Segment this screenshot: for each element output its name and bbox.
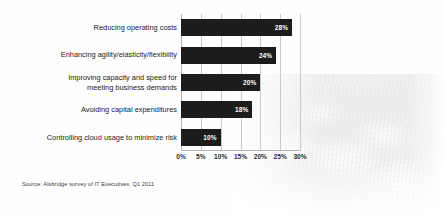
bar-row: 24% [181, 47, 300, 64]
bar-value-label: 28% [275, 24, 292, 31]
bar-row: 10% [181, 129, 300, 146]
x-tick-label: 0% [176, 153, 186, 160]
bar: 18% [181, 101, 252, 118]
chart-figure: 28%24%20%18%10% Reducing operating costs… [0, 0, 444, 215]
bar-value-label: 18% [235, 106, 252, 113]
plot-area: 28%24%20%18%10% [181, 14, 300, 151]
category-label: Reducing operating costs [0, 23, 177, 33]
x-tick-label: 10% [214, 153, 227, 160]
category-label: Improving capacity and speed for meeting… [0, 73, 177, 92]
x-tick-label: 20% [254, 153, 267, 160]
x-tick-label: 15% [234, 153, 247, 160]
x-axis-line [181, 150, 300, 151]
x-tick-label: 25% [274, 153, 287, 160]
source-note: Source: Alsbridge survey of IT Executive… [22, 181, 154, 187]
bar-row: 28% [181, 19, 300, 36]
bar-row: 20% [181, 74, 300, 91]
x-tick-label: 5% [196, 153, 206, 160]
bar: 28% [181, 19, 292, 36]
bar: 10% [181, 129, 221, 146]
x-tick-label: 30% [293, 153, 306, 160]
bar-value-label: 20% [243, 79, 260, 86]
category-label: Avoiding capital expenditures [0, 105, 177, 115]
bar: 20% [181, 74, 260, 91]
bar-row: 18% [181, 101, 300, 118]
category-label: Enhancing agility/elasticity/flexibility [0, 50, 177, 60]
bar-value-label: 10% [203, 134, 220, 141]
category-label: Controlling cloud usage to minimize risk [0, 133, 177, 143]
bar: 24% [181, 47, 276, 64]
gridline-30% [300, 14, 301, 151]
bar-value-label: 24% [259, 52, 276, 59]
